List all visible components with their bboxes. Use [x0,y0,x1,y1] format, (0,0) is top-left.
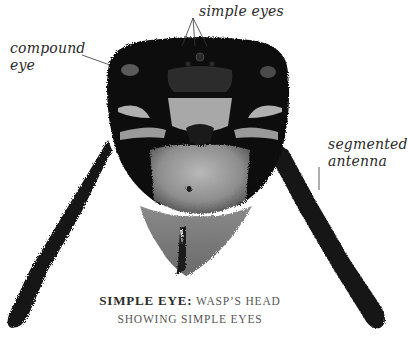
figure-caption: SIMPLE EYE: WASP’S HEAD SHOWING SIMPLE E… [60,292,320,328]
caption-line-2: SHOWING SIMPLE EYES [60,310,320,328]
label-line: compound [10,40,86,57]
caption-line-1-rest: WASP’S HEAD [196,295,281,307]
caption-line-1: SIMPLE EYE: WASP’S HEAD [60,292,320,310]
label-segmented-antenna: segmented antenna [328,136,408,170]
label-line: eye [10,57,86,74]
mandibles [140,206,252,276]
label-compound-eye: compound eye [10,40,86,74]
label-simple-eyes: simple eyes [199,3,284,20]
clypeus [150,145,250,214]
label-line: simple eyes [199,3,284,20]
caption-title: SIMPLE EYE: [99,293,192,308]
label-line: antenna [328,153,408,170]
compound-eye-leader [82,55,110,65]
label-line: segmented [328,136,408,153]
frons [168,66,233,92]
